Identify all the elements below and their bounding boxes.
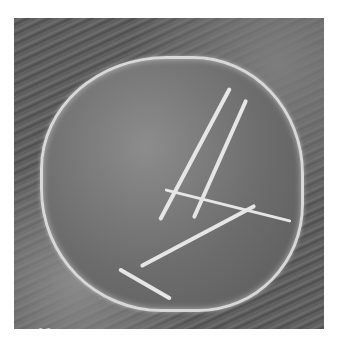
specimen-body	[40, 56, 304, 312]
micrograph-photo: 19 copyright Larry Fritz	[14, 18, 324, 329]
ridge-line	[118, 267, 172, 300]
caption: 19 copyright Larry Fritz	[36, 325, 138, 329]
figure-number: 19	[36, 325, 53, 329]
ridge-line	[140, 204, 257, 269]
